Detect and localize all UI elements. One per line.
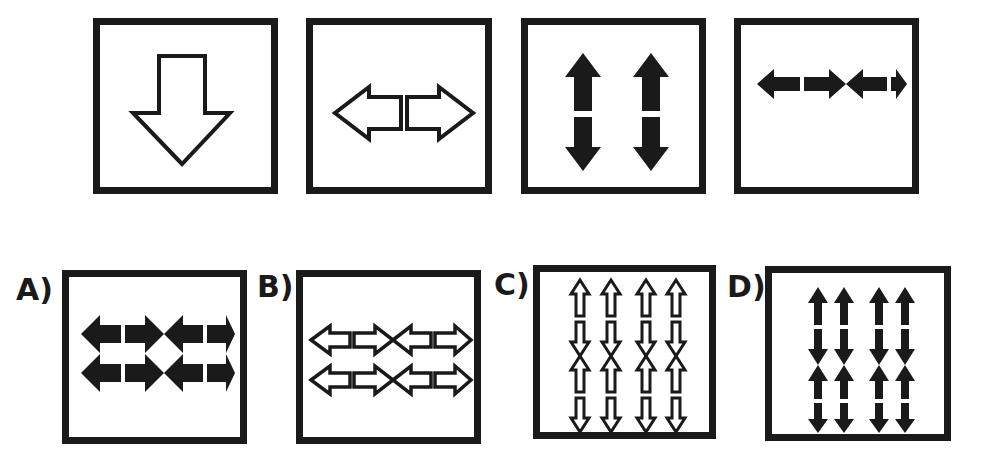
option-d-figure[interactable]	[765, 266, 951, 441]
sequence-figure-1	[93, 18, 278, 194]
hollow-down-arrow-icon	[100, 25, 271, 187]
option-a-label: A)	[16, 275, 53, 305]
hollow-double-arrow-icon	[313, 25, 485, 187]
option-c-label: C)	[494, 270, 530, 300]
option-d-label: D)	[727, 272, 766, 302]
option-b-figure[interactable]	[296, 270, 481, 444]
solid-horizontal-double-arrows-grid-icon	[741, 25, 912, 187]
solid-vertical-double-arrows-icon	[528, 25, 699, 187]
hollow-horizontal-double-arrows-icon	[303, 277, 474, 437]
sequence-figure-3	[521, 18, 706, 194]
option-c-figure[interactable]	[533, 265, 716, 439]
solid-horizontal-double-arrows-icon	[69, 277, 240, 437]
hollow-vertical-double-arrows-icon	[540, 272, 709, 432]
option-a-figure[interactable]	[62, 270, 247, 444]
option-b-label: B)	[257, 272, 294, 302]
solid-vertical-double-arrows-icon	[772, 273, 944, 434]
sequence-figure-2	[306, 18, 492, 194]
sequence-figure-4	[734, 18, 919, 194]
